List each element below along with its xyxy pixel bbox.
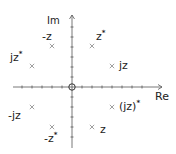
- cross-marker-icon: [30, 64, 34, 68]
- cross-marker-icon: [30, 105, 34, 109]
- real-axis-label: Re: [155, 91, 169, 102]
- point-label-z-conj: z*: [96, 31, 105, 42]
- cross-marker-icon: [90, 125, 94, 129]
- cross-marker-icon: [90, 44, 94, 48]
- axes-graphic: [0, 0, 176, 154]
- cross-marker-icon: [50, 44, 54, 48]
- point-label-neg-z: -z: [42, 31, 52, 42]
- imaginary-axis-label: Im: [47, 16, 60, 26]
- point-label-jz: jz: [119, 60, 128, 71]
- point-label-jz-all-conj: (jz)*: [119, 101, 140, 112]
- point-label-z: z: [100, 124, 106, 135]
- complex-plane-diagram: Im Re -zz*jz*jz-jz(jz)*-z*z: [0, 0, 176, 154]
- point-label-jz-conj: jz*: [10, 52, 23, 63]
- axis-ticks: [22, 27, 142, 137]
- point-label-neg-jz: -jz: [8, 110, 21, 121]
- cross-marker-icon: [50, 125, 54, 129]
- point-label-neg-z-conj: -z*: [44, 133, 57, 144]
- cross-marker-icon: [110, 64, 114, 68]
- cross-marker-icon: [110, 105, 114, 109]
